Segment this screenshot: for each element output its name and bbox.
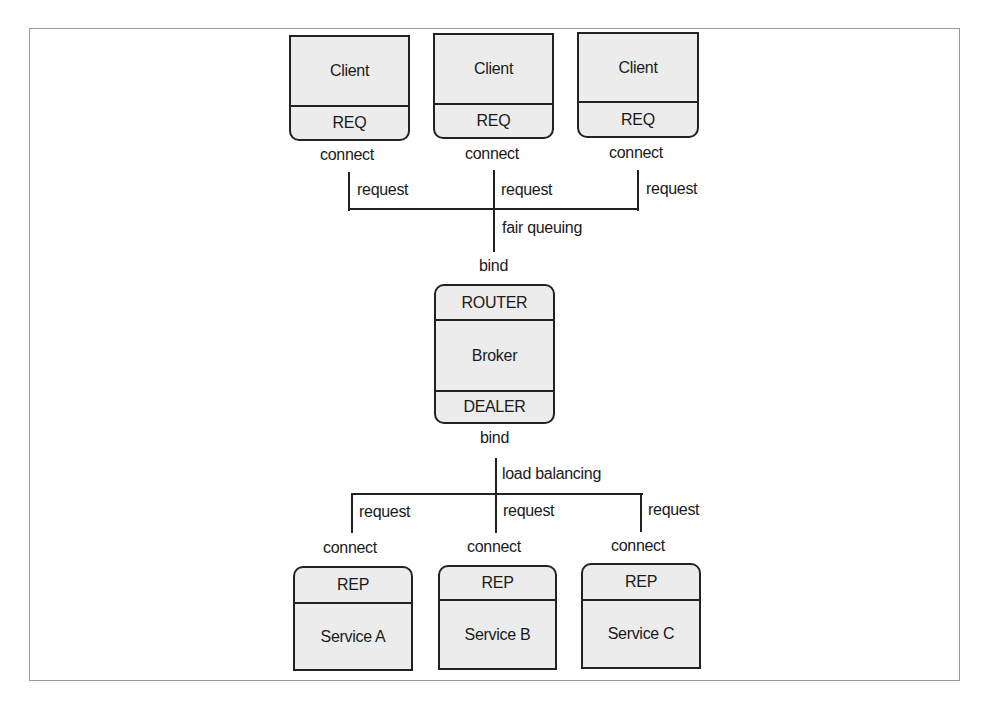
broker-back-bind-label: bind — [480, 429, 509, 447]
service-box-c: REP Service C — [581, 563, 701, 669]
req-socket: REQ — [291, 105, 408, 139]
client-1-connector — [348, 172, 350, 211]
service-name: Service B — [440, 599, 555, 668]
broker-name: Broker — [436, 319, 553, 390]
service-box-b: REP Service B — [438, 565, 557, 670]
service-a-request-label: request — [359, 503, 410, 521]
rep-socket: REP — [583, 565, 699, 599]
req-socket: REQ — [579, 101, 697, 136]
client-box-1: Client REQ — [289, 35, 410, 141]
client-1-connect-label: connect — [320, 146, 374, 164]
client-box-2: Client REQ — [433, 33, 554, 139]
service-box-a: REP Service A — [293, 566, 413, 671]
dealer-socket: DEALER — [436, 390, 553, 422]
service-a-connect-label: connect — [323, 539, 377, 557]
service-c-request-label: request — [648, 501, 699, 519]
load-balancing-label: load balancing — [502, 465, 601, 483]
client-2-connector — [493, 170, 495, 252]
client-1-request-label: request — [357, 181, 408, 199]
req-socket: REQ — [435, 103, 552, 137]
front-bus — [348, 208, 639, 210]
client-name: Client — [291, 37, 408, 105]
broker-back-connector — [495, 458, 497, 533]
service-a-connector — [351, 493, 353, 533]
router-socket: ROUTER — [436, 286, 553, 319]
client-name: Client — [579, 34, 697, 101]
service-name: Service A — [295, 602, 411, 669]
broker-front-bind-label: bind — [479, 257, 508, 275]
client-3-connect-label: connect — [609, 144, 663, 162]
broker-box: ROUTER Broker DEALER — [434, 284, 555, 424]
rep-socket: REP — [295, 568, 411, 602]
client-3-connector — [637, 170, 639, 211]
fair-queuing-label: fair queuing — [502, 219, 582, 237]
back-bus — [351, 493, 643, 495]
service-c-connector — [640, 493, 642, 532]
client-2-request-label: request — [501, 181, 552, 199]
service-name: Service C — [583, 599, 699, 667]
client-2-connect-label: connect — [465, 145, 519, 163]
client-box-3: Client REQ — [577, 32, 699, 138]
service-b-request-label: request — [503, 502, 554, 520]
client-name: Client — [435, 35, 552, 103]
service-c-connect-label: connect — [611, 537, 665, 555]
service-b-connect-label: connect — [467, 538, 521, 556]
rep-socket: REP — [440, 567, 555, 599]
client-3-request-label: request — [646, 180, 697, 198]
